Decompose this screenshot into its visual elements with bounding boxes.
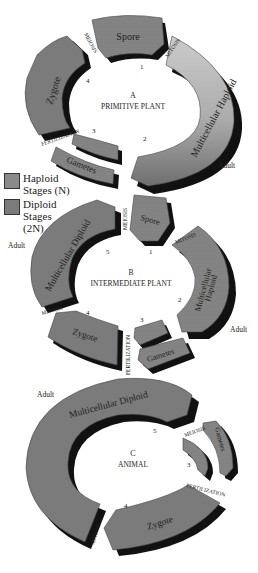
meiosis-label-b: MEIOSIS: [122, 208, 128, 230]
legend-diploid-line2: Stages: [23, 210, 57, 222]
legend-item-haploid: Haploid Stages (N): [4, 172, 70, 196]
cycle-c-letter: C: [130, 449, 135, 458]
cycle-c-zygote-segment: Zygote: [104, 485, 226, 556]
step-5-c: 5: [153, 427, 157, 435]
haploid-swatch: [4, 173, 20, 189]
cycle-c-title: ANIMAL: [118, 460, 148, 469]
legend: Haploid Stages (N) Diploid Stages (2N): [4, 172, 70, 236]
step-3-a: 3: [92, 127, 96, 135]
cycle-a-title: PRIMITIVE PLANT: [101, 102, 165, 111]
cycle-c-animal: Multicellular Diploid Gametes Zygote MEI…: [26, 378, 238, 556]
legend-diploid-line3: (2N): [23, 222, 57, 234]
step-1-a: 1: [140, 63, 144, 71]
step-1-b: 1: [149, 248, 153, 256]
adult-label-a: Adult: [218, 161, 236, 170]
life-cycle-diagram: Spore Multicellular Haploid Zygote Gamet…: [0, 0, 258, 573]
cycle-a-multicellular-haploid-segment: Multicellular Haploid: [131, 36, 242, 194]
cycle-c-gamete-small-segment: [183, 438, 213, 481]
legend-diploid-line1: Diploid: [23, 198, 57, 210]
cycle-a-letter: A: [130, 91, 136, 100]
cycle-a-zygote-segment: Zygote: [25, 36, 91, 141]
step-2-b: 2: [178, 296, 182, 304]
step-4-c: 4: [124, 502, 128, 510]
cycle-b-multicellular-haploid-segment: Multicellular Haploid: [172, 226, 236, 339]
legend-haploid-line2: Stages (N): [23, 184, 70, 196]
step-2-a: 2: [143, 135, 147, 143]
cycle-b-title: INTERMEDIATE PLANT: [90, 279, 171, 288]
step-3-c: 3: [187, 461, 191, 469]
cycle-b-spore-segment: Spore: [130, 195, 175, 246]
meiosis-label-c: MEIOSIS: [183, 425, 206, 438]
diploid-swatch: [4, 199, 20, 215]
cycle-a-spore-segment: Spore: [92, 15, 169, 63]
legend-item-diploid: Diploid Stages (2N): [4, 198, 70, 234]
cycle-b-letter: B: [128, 268, 133, 277]
cycle-a-primitive-plant: Spore Multicellular Haploid Zygote Gamet…: [25, 15, 242, 194]
fertilization-label-b: FERTILIZATION: [125, 335, 131, 375]
cycle-b-zygote-segment: Zygote: [48, 311, 123, 371]
step-4-a: 4: [86, 77, 90, 85]
adult-right-label-b: Adult: [230, 325, 248, 334]
adult-label-c: Adult: [37, 390, 55, 399]
spore-label: Spore: [116, 31, 140, 42]
step-4-b: 4: [86, 309, 90, 317]
step-5-b: 5: [106, 248, 110, 256]
step-3-b: 3: [140, 316, 144, 324]
adult-left-label-b: Adult: [8, 241, 26, 250]
legend-haploid-line1: Haploid: [23, 172, 70, 184]
